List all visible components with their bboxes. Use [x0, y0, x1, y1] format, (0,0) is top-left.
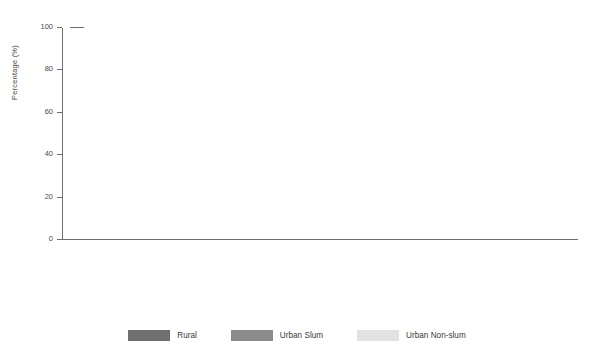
legend-item-urban-slum: Urban Slum [231, 330, 323, 341]
y-axis-line [62, 28, 63, 240]
legend-label-urban-non-slum: Urban Non-slum [406, 331, 466, 340]
plot-area: 020406080100 [62, 28, 578, 240]
legend-label-rural: Rural [177, 331, 197, 340]
x-axis-line [62, 239, 578, 240]
y-tick-label: 80 [45, 64, 53, 73]
y-tick: 80 [57, 69, 62, 70]
legend-item-rural: Rural [128, 330, 197, 341]
legend-swatch-urban-slum [231, 330, 273, 341]
y-tick-label: 0 [49, 234, 53, 243]
y-tick-label: 60 [45, 107, 53, 116]
y-tick: 0 [57, 239, 62, 240]
y-tick-label: 20 [45, 192, 53, 201]
y-tick: 100 [57, 27, 62, 28]
chart-container: Percentage (%) 020406080100 Rural Urban … [0, 0, 594, 363]
legend-label-urban-slum: Urban Slum [280, 331, 323, 340]
legend-swatch-rural [128, 330, 170, 341]
y-tick-top-mark [70, 27, 84, 28]
y-axis-title: Percentage (%) [10, 0, 19, 100]
legend-item-urban-non-slum: Urban Non-slum [357, 330, 466, 341]
chart-legend: Rural Urban Slum Urban Non-slum [0, 330, 594, 341]
y-tick-label: 40 [45, 149, 53, 158]
y-tick: 20 [57, 197, 62, 198]
y-tick-label: 100 [40, 22, 53, 31]
y-tick: 60 [57, 112, 62, 113]
y-tick: 40 [57, 154, 62, 155]
legend-swatch-urban-non-slum [357, 330, 399, 341]
